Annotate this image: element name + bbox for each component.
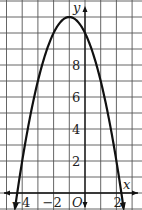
y-tick-label: 8 (72, 58, 80, 73)
axes (4, 6, 138, 208)
grid (0, 0, 142, 210)
x-axis-label: x (123, 177, 131, 192)
x-tick-label: 2 (113, 195, 121, 210)
x-tick-label: −4 (11, 195, 30, 210)
y-axis-arrow-down-icon (83, 202, 88, 208)
y-tick-label: 2 (72, 154, 80, 169)
parabola-chart: −4−222468 x y O (0, 0, 142, 210)
y-axis-arrow-icon (83, 6, 88, 12)
origin-label: O (72, 195, 83, 210)
y-axis-label: y (72, 0, 81, 15)
x-tick-label: −2 (43, 195, 62, 210)
y-tick-label: 4 (72, 122, 80, 137)
y-tick-label: 6 (72, 90, 80, 105)
x-axis-arrow-icon (132, 191, 138, 196)
x-axis-arrow-left-icon (4, 191, 10, 196)
